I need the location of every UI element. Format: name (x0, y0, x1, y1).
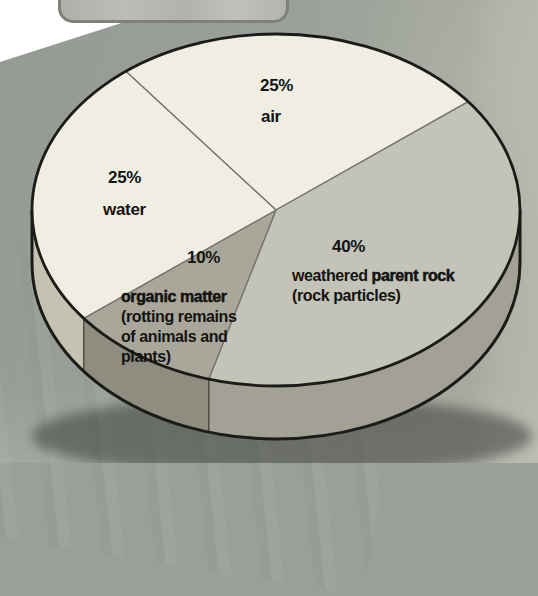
organic-percent-label: 10% (187, 248, 220, 268)
organic-sublabel-line1: (rotting remains (121, 307, 236, 327)
organic-label-block: organic matter (rotting remains of anima… (121, 287, 236, 367)
air-percent-label: 25% (260, 76, 293, 96)
rock-percent-label: 40% (332, 237, 365, 257)
organic-sublabel-line3: plants) (121, 347, 236, 367)
air-label: air (261, 107, 281, 127)
water-percent-label: 25% (108, 168, 141, 188)
rock-label-weathered: weathered (292, 267, 368, 284)
rock-label-line: weathered parent rock (292, 266, 454, 286)
organic-matter-label: organic matter (121, 287, 236, 307)
organic-sublabel-line2: of animals and (121, 327, 236, 347)
water-label: water (103, 200, 146, 220)
rock-label-block: weathered parent rock (rock particles) (292, 266, 454, 306)
rock-label-parent-rock: parent rock (368, 267, 455, 284)
rock-sublabel: (rock particles) (292, 286, 454, 306)
